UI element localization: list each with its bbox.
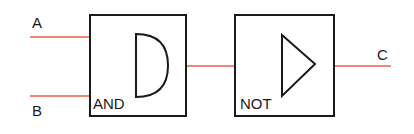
output-label-c: C <box>377 47 388 62</box>
not-gate-label: NOT <box>240 96 272 111</box>
circuit-canvas <box>0 0 414 134</box>
input-label-b: B <box>32 103 42 118</box>
input-label-a: A <box>32 15 42 30</box>
and-gate-label: AND <box>93 96 125 111</box>
